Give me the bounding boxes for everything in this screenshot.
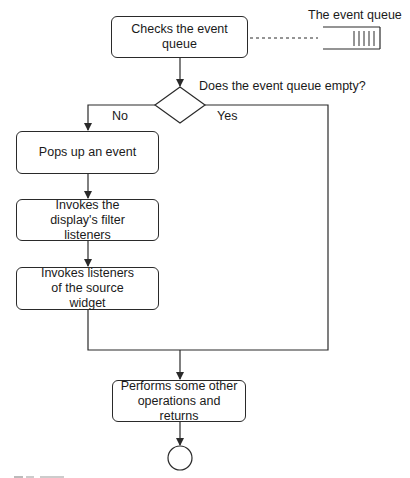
decision-question-label: Does the event queue empty? [199, 79, 366, 94]
node-filter-listeners: Invokes the display's filter listeners [16, 199, 159, 241]
node-check-queue: Checks the event queue [111, 16, 248, 58]
node-source-listeners-label: Invokes listeners of the source widget [35, 266, 140, 311]
event-queue-icon [323, 27, 380, 49]
edge-yes-branch [180, 105, 328, 350]
flowchart-canvas: Checks the event queue Does the event qu… [0, 0, 410, 478]
figure-caption-cropped [14, 472, 64, 478]
node-other-operations-label: Performs some other operations and retur… [117, 379, 241, 424]
branch-yes-label: Yes [217, 109, 237, 124]
node-check-queue-label: Checks the event queue [118, 22, 241, 52]
node-other-operations: Performs some other operations and retur… [112, 380, 246, 422]
end-circle [168, 446, 192, 470]
decision-diamond [155, 87, 205, 123]
node-source-listeners: Invokes listeners of the source widget [16, 267, 159, 310]
node-pop-event: Pops up an event [16, 131, 159, 174]
event-queue-title: The event queue [308, 8, 402, 23]
edge-source-to-merge [88, 310, 180, 350]
branch-no-label: No [112, 109, 128, 124]
node-filter-listeners-label: Invokes the display's filter listeners [35, 198, 140, 243]
node-pop-event-label: Pops up an event [39, 145, 136, 160]
